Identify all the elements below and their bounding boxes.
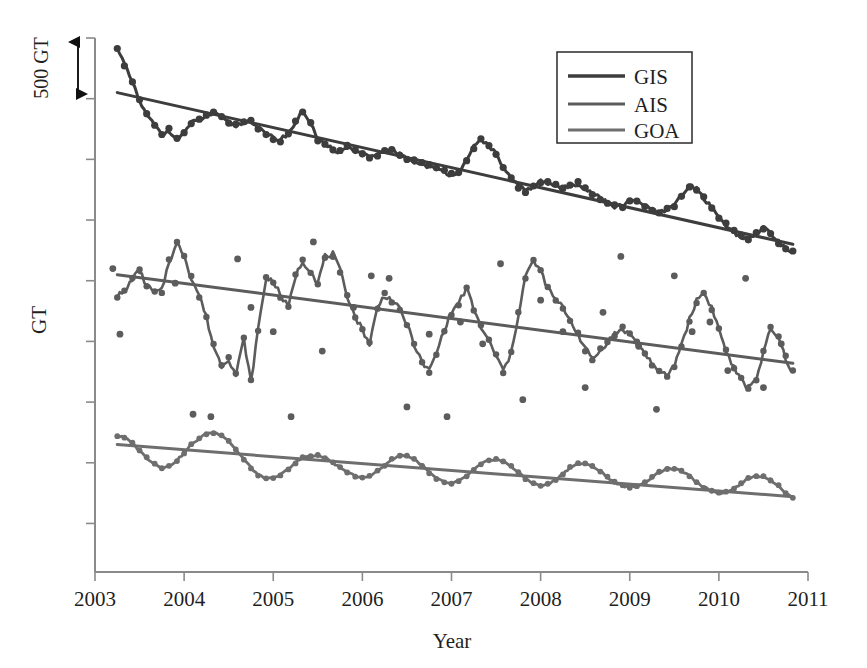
data-point — [270, 475, 276, 481]
data-point — [159, 465, 165, 471]
data-point — [181, 129, 188, 136]
data-point — [768, 478, 774, 484]
x-axis-tick-labels: 200320042005200620072008200920102011 — [74, 587, 829, 611]
legend-label-gis: GIS — [634, 65, 668, 89]
outlier-point — [117, 331, 124, 338]
data-point — [597, 345, 603, 351]
data-point — [241, 457, 247, 463]
data-point — [582, 460, 588, 466]
data-point — [121, 287, 127, 293]
y-axis-title: GT — [27, 306, 51, 334]
outlier-point — [479, 340, 486, 347]
data-point — [605, 474, 611, 480]
data-point — [700, 193, 707, 200]
figure-container: 200320042005200620072008200920102011 500… — [0, 0, 867, 668]
data-point — [225, 354, 231, 360]
data-point — [151, 122, 158, 129]
data-point — [567, 318, 573, 324]
data-point — [485, 142, 492, 149]
data-point — [716, 325, 722, 331]
data-point — [174, 458, 180, 464]
data-point — [255, 125, 262, 132]
outlier-point — [109, 265, 116, 272]
data-point — [366, 339, 372, 345]
data-point — [330, 253, 336, 259]
data-point — [166, 256, 172, 262]
data-point — [537, 267, 543, 273]
data-point — [486, 457, 492, 463]
outlier-point — [426, 331, 433, 338]
outlier-point — [617, 253, 624, 260]
data-point — [152, 461, 158, 467]
data-point — [226, 438, 232, 444]
data-point — [337, 464, 343, 470]
data-point — [767, 324, 773, 330]
data-point — [515, 184, 522, 191]
data-point — [560, 472, 566, 478]
data-point — [203, 314, 209, 320]
data-point — [760, 348, 766, 354]
data-point — [449, 481, 455, 487]
data-point — [619, 323, 625, 329]
data-point — [753, 377, 759, 383]
data-point — [188, 120, 195, 127]
data-point — [433, 352, 439, 358]
data-point — [567, 464, 573, 470]
data-point — [374, 152, 381, 159]
data-point — [114, 45, 121, 52]
data-point — [152, 288, 158, 294]
data-point — [411, 341, 417, 347]
data-point — [299, 256, 305, 262]
data-point — [263, 274, 269, 280]
data-point — [293, 461, 299, 467]
data-point — [404, 322, 410, 328]
outlier-point — [248, 304, 255, 311]
x-tick-label: 2006 — [341, 587, 383, 611]
data-point — [664, 466, 670, 472]
data-point — [263, 131, 270, 138]
data-point — [241, 335, 247, 341]
data-point — [508, 463, 514, 469]
data-point — [671, 364, 677, 370]
data-point — [143, 283, 149, 289]
data-point — [463, 157, 470, 164]
data-point — [574, 178, 581, 185]
data-point — [500, 164, 507, 171]
data-point — [166, 463, 172, 469]
data-point — [210, 341, 216, 347]
data-point — [366, 154, 373, 161]
data-point — [196, 116, 203, 123]
data-point — [404, 453, 410, 459]
data-point — [285, 304, 291, 310]
data-point — [277, 138, 284, 145]
data-point — [255, 328, 261, 334]
data-point — [336, 147, 343, 154]
data-point — [633, 197, 640, 204]
data-point — [321, 141, 328, 148]
data-point — [715, 215, 722, 222]
data-point — [337, 269, 343, 275]
outlier-point — [653, 406, 660, 413]
data-point — [286, 466, 292, 472]
data-point — [137, 448, 143, 454]
data-point — [441, 479, 447, 485]
outlier-point — [207, 413, 214, 420]
data-point — [448, 170, 455, 177]
data-point — [626, 197, 633, 204]
data-point — [263, 475, 269, 481]
data-point — [292, 271, 298, 277]
data-point — [277, 473, 283, 479]
data-point — [225, 119, 232, 126]
data-point — [181, 253, 187, 259]
data-point — [783, 352, 789, 358]
data-point — [173, 135, 180, 142]
outlier-point — [671, 272, 678, 279]
data-point — [686, 318, 692, 324]
data-point — [767, 230, 774, 237]
outlier-point — [270, 328, 277, 335]
data-point — [589, 191, 596, 198]
chart-canvas: 200320042005200620072008200920102011 500… — [0, 0, 867, 668]
data-point — [708, 204, 715, 211]
data-point — [745, 236, 752, 243]
x-axis-title: Year — [433, 629, 472, 653]
